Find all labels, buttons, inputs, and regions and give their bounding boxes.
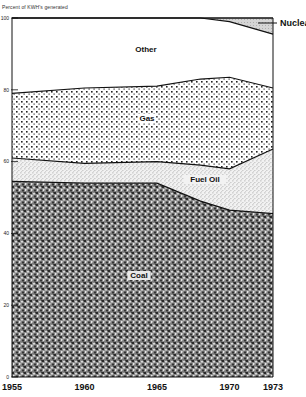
nuclear-label: Nuclear — [280, 18, 306, 28]
y-tick-label: 100 — [1, 15, 10, 21]
y-tick-label: 60 — [3, 158, 9, 164]
other-label: Other — [135, 45, 156, 54]
x-tick-label: 1970 — [219, 382, 239, 392]
y-tick-label: 0 — [6, 374, 9, 380]
y-tick-label: 40 — [3, 230, 9, 236]
x-tick-label: 1965 — [147, 382, 167, 392]
x-tick-label: 1973 — [263, 382, 283, 392]
coal-label: Coal — [130, 271, 147, 280]
gas-label: Gas — [139, 114, 155, 123]
y-tick-label: 20 — [3, 302, 9, 308]
y-tick-label: 80 — [3, 87, 9, 93]
x-tick-label: 1960 — [74, 382, 94, 392]
stacked-area-chart: 02040608010019551960196519701973 OtherGa… — [0, 0, 306, 397]
fuel-oil-label: Fuel Oil — [190, 175, 219, 184]
x-tick-label: 1955 — [2, 382, 22, 392]
